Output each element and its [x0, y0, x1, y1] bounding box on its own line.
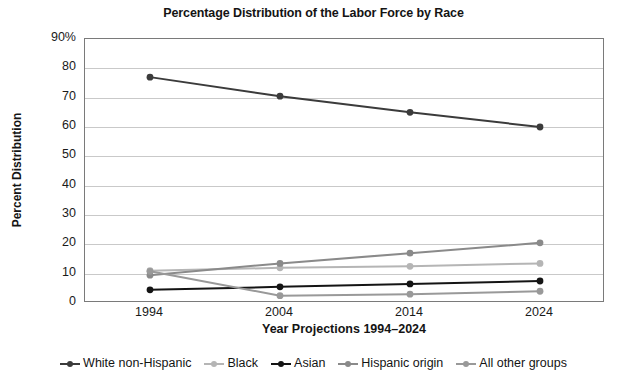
data-point-marker — [407, 263, 414, 270]
x-axis-tick-label: 1994 — [109, 305, 189, 319]
y-axis-tick-label: 50 — [0, 147, 76, 161]
y-axis-tick-label: 30 — [0, 206, 76, 220]
y-axis-tick-label: 0 — [0, 294, 76, 308]
chart-title: Percentage Distribution of the Labor For… — [0, 6, 627, 20]
y-axis-tick-label: 20 — [0, 235, 76, 249]
legend-item[interactable]: White non-Hispanic — [60, 357, 191, 370]
x-axis-tick-label: 2014 — [369, 305, 449, 319]
legend-label: All other groups — [479, 357, 567, 370]
legend-item[interactable]: Black — [204, 357, 258, 370]
data-point-marker — [537, 124, 544, 131]
series-line — [150, 243, 540, 275]
legend-marker-icon — [338, 358, 358, 369]
y-axis-tick-label: 60 — [0, 118, 76, 132]
data-point-marker — [407, 250, 414, 257]
data-point-marker — [277, 260, 284, 267]
data-point-marker — [537, 260, 544, 267]
legend-item[interactable]: Asian — [271, 357, 325, 370]
x-axis-title: Year Projections 1994–2024 — [84, 322, 604, 336]
data-point-marker — [147, 74, 154, 81]
legend-label: Black — [227, 357, 258, 370]
y-axis-tick-label: 10 — [0, 265, 76, 279]
data-point-marker — [537, 288, 544, 295]
x-axis-tick-label: 2024 — [499, 305, 579, 319]
series-line — [150, 271, 540, 295]
data-point-marker — [277, 283, 284, 290]
legend-item[interactable]: Hispanic origin — [338, 357, 443, 370]
data-point-marker — [407, 281, 414, 288]
x-axis-tick-label: 2004 — [239, 305, 319, 319]
data-point-marker — [147, 286, 154, 293]
y-axis-tick-label: 90% — [0, 30, 76, 44]
y-axis-tick-label: 70 — [0, 89, 76, 103]
legend-label: Asian — [294, 357, 325, 370]
chart-legend: White non-HispanicBlackAsianHispanic ori… — [0, 357, 627, 370]
series-lines — [85, 39, 605, 303]
y-axis-tick-label: 40 — [0, 177, 76, 191]
legend-marker-icon — [204, 358, 224, 369]
legend-item[interactable]: All other groups — [456, 357, 567, 370]
plot-area — [84, 38, 604, 302]
legend-marker-icon — [271, 358, 291, 369]
data-point-marker — [277, 93, 284, 100]
legend-marker-icon — [456, 358, 476, 369]
y-axis-tick-label: 80 — [0, 59, 76, 73]
data-point-marker — [407, 291, 414, 298]
legend-label: Hispanic origin — [361, 357, 443, 370]
chart-container: Percentage Distribution of the Labor For… — [0, 0, 627, 380]
legend-marker-icon — [60, 358, 80, 369]
data-point-marker — [537, 239, 544, 246]
data-point-marker — [277, 292, 284, 299]
data-point-marker — [147, 268, 154, 275]
data-point-marker — [537, 278, 544, 285]
y-axis-title: Percent Distribution — [9, 38, 25, 302]
legend-label: White non-Hispanic — [83, 357, 191, 370]
series-line — [150, 77, 540, 127]
data-point-marker — [407, 109, 414, 116]
